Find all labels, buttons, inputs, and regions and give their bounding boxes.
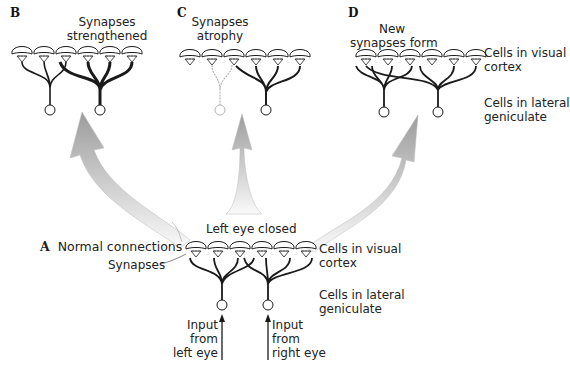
panel-b-caption: Synapses strengthened [62, 15, 152, 43]
top-cortex-label: Cells in visual cortex [484, 46, 566, 74]
arrow-to-panel-b [70, 112, 190, 248]
panel-d-caption: New synapses form [350, 22, 434, 50]
bottom-lgn-label: Cells in lateral geniculate [319, 288, 405, 316]
condition-label: Left eye closed [206, 222, 297, 236]
bottom-cortex-label: Cells in visual cortex [319, 242, 401, 270]
arrow-to-panel-c [226, 114, 262, 214]
panel-c-neurons [180, 50, 310, 116]
left-eye-input-label: Input from left eye [168, 318, 218, 360]
panel-b-letter: B [10, 6, 20, 20]
top-lgn-label: Cells in lateral geniculate [484, 96, 570, 124]
panel-b-neurons [12, 47, 142, 116]
panel-a-title: A Normal connections [40, 240, 182, 254]
panel-d-neurons [356, 50, 486, 118]
panel-d-letter: D [348, 6, 358, 20]
synapses-label: Synapses [108, 258, 165, 272]
panel-c-caption: Synapses atrophy [180, 15, 260, 43]
arrow-to-panel-d [306, 115, 418, 252]
right-eye-input-label: Input from right eye [272, 318, 326, 360]
